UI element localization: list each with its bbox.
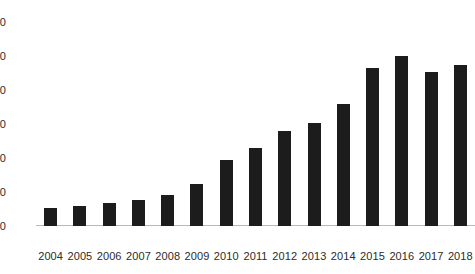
bar-slot xyxy=(270,0,299,274)
y-tick-label: 00 xyxy=(0,85,6,96)
y-tick-label: 00 xyxy=(0,153,6,164)
bar[interactable] xyxy=(103,203,116,226)
bar-chart: 00 00 00 00 00 00 0 20042005200620072008… xyxy=(0,0,475,274)
bar-slot xyxy=(95,0,124,274)
bar[interactable] xyxy=(425,72,438,226)
bar-slot xyxy=(65,0,94,274)
bar-slot xyxy=(153,0,182,274)
bar[interactable] xyxy=(190,184,203,226)
bar[interactable] xyxy=(220,160,233,226)
x-tick-label: 2017 xyxy=(416,250,445,262)
x-tick-label: 2012 xyxy=(270,250,299,262)
bar-slot xyxy=(241,0,270,274)
y-tick-label-zero: 0 xyxy=(0,221,6,232)
x-tick-label: 2010 xyxy=(212,250,241,262)
bar[interactable] xyxy=(249,148,262,226)
bar[interactable] xyxy=(44,208,57,226)
bar[interactable] xyxy=(132,200,145,226)
plot-area xyxy=(36,0,475,274)
x-tick-label: 2009 xyxy=(182,250,211,262)
bar-slot xyxy=(299,0,328,274)
x-tick-label: 2016 xyxy=(387,250,416,262)
bar[interactable] xyxy=(337,104,350,226)
y-tick-label: 00 xyxy=(0,51,6,62)
bar-slot xyxy=(182,0,211,274)
bar[interactable] xyxy=(454,65,467,226)
bar-slot xyxy=(446,0,475,274)
x-tick-label: 2006 xyxy=(95,250,124,262)
x-tick-label: 2015 xyxy=(358,250,387,262)
x-axis: 2004200520062007200820092010201120122013… xyxy=(36,250,475,274)
bar-slot xyxy=(124,0,153,274)
y-tick-label: 00 xyxy=(0,119,6,130)
bar-series xyxy=(36,0,475,274)
x-tick-label: 2014 xyxy=(329,250,358,262)
bar-slot xyxy=(416,0,445,274)
y-axis: 00 00 00 00 00 00 0 xyxy=(0,0,36,274)
y-tick-label: 00 xyxy=(0,187,6,198)
y-tick-label: 00 xyxy=(0,17,6,28)
bar[interactable] xyxy=(161,195,174,226)
x-tick-label: 2013 xyxy=(299,250,328,262)
x-tick-label: 2008 xyxy=(153,250,182,262)
bar[interactable] xyxy=(278,131,291,226)
bar[interactable] xyxy=(366,68,379,226)
x-tick-label: 2004 xyxy=(36,250,65,262)
bar[interactable] xyxy=(395,56,408,226)
bar[interactable] xyxy=(73,206,86,226)
x-tick-label: 2007 xyxy=(124,250,153,262)
bar-slot xyxy=(329,0,358,274)
bar-slot xyxy=(358,0,387,274)
bar-slot xyxy=(36,0,65,274)
bar-slot xyxy=(387,0,416,274)
x-tick-label: 2018 xyxy=(446,250,475,262)
x-tick-label: 2011 xyxy=(241,250,270,262)
bar[interactable] xyxy=(308,123,321,226)
bar-slot xyxy=(212,0,241,274)
x-tick-label: 2005 xyxy=(65,250,94,262)
